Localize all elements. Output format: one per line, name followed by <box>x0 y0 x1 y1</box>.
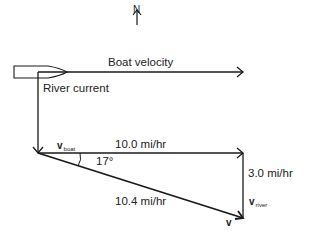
v-river-magnitude: 3.0 mi/hr <box>248 168 293 180</box>
v-river-symbol-main: v <box>249 196 255 207</box>
v-river-subscript: river <box>256 202 268 208</box>
v-result-magnitude: 10.4 mi/hr <box>115 196 166 208</box>
river-current-arrow <box>33 72 43 153</box>
boat-velocity-label: Boat velocity <box>108 57 173 69</box>
v-boat-subscript: boat <box>64 146 76 152</box>
v-resultant-vector <box>38 153 243 219</box>
boat-velocity-arrow <box>38 67 243 77</box>
v-result-symbol: v <box>226 218 232 228</box>
angle-arc <box>78 153 81 166</box>
v-boat-symbol-main: v <box>57 140 63 151</box>
v-boat-magnitude: 10.0 mi/hr <box>115 139 166 151</box>
v-boat-symbol: vboat <box>57 141 75 152</box>
north-label: N <box>133 5 140 15</box>
angle-label: 17° <box>96 156 113 168</box>
river-current-label: River current <box>43 83 109 95</box>
v-river-symbol: vriver <box>249 197 267 208</box>
